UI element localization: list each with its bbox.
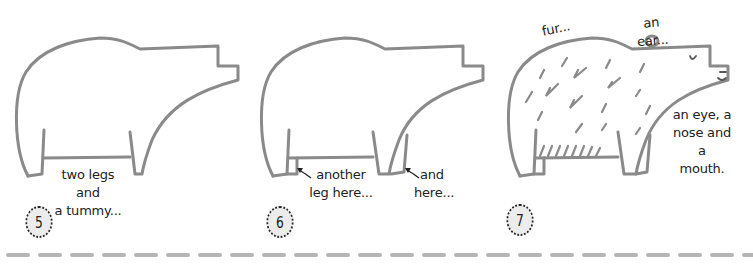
dashed-cut-line	[0, 252, 753, 258]
caption-an-ear: an ear...	[627, 12, 678, 52]
caption-another-leg: another leg here...	[309, 166, 373, 202]
step-6-panel: another leg here... and here... 6	[251, 0, 502, 265]
caption-and-here: and here...	[414, 166, 450, 202]
step-number-badge: 7	[506, 204, 533, 236]
step-number-badge: 5	[25, 206, 52, 238]
step-number-badge: 6	[266, 206, 293, 238]
step-5-panel: two legs and a tummy... 5	[0, 0, 251, 265]
caption-two-legs: two legs and a tummy...	[48, 166, 128, 220]
step-7-panel: fur... an ear... an eye, a nose and a mo…	[502, 0, 753, 265]
caption-eye-nose-mouth: an eye, a nose and a mouth.	[670, 106, 734, 178]
